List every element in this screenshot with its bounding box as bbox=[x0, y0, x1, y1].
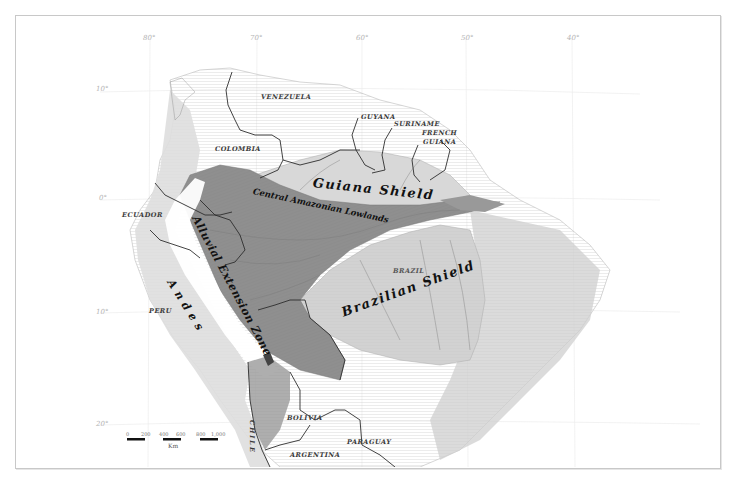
country-label-colombia: COLOMBIA bbox=[215, 145, 261, 153]
country-label-bolivia: BOLIVIA bbox=[287, 414, 323, 422]
country-label-suriname: SURINAME bbox=[394, 120, 440, 128]
country-label-argentina: ARGENTINA bbox=[290, 451, 340, 459]
longitude-label-50: 50° bbox=[461, 34, 473, 42]
scale-tick-400: 400 bbox=[159, 431, 169, 437]
scale-bar bbox=[127, 438, 218, 441]
longitude-label-70: 70° bbox=[250, 34, 262, 42]
country-label-paraguay: PARAGUAY bbox=[347, 438, 391, 446]
longitude-label-60: 60° bbox=[356, 34, 368, 42]
country-label-french: FRENCH bbox=[422, 129, 457, 137]
country-label-venezuela: VENEZUELA bbox=[261, 93, 311, 101]
longitude-label-80: 80° bbox=[143, 34, 155, 42]
latitude-label-10s: 10° bbox=[96, 308, 108, 316]
scale-tick-600: 600 bbox=[176, 431, 186, 437]
scale-tick-0: 0 bbox=[126, 431, 129, 437]
country-label-chile: CHILE bbox=[248, 420, 256, 454]
country-label-guyana: GUYANA bbox=[361, 113, 395, 121]
scale-tick-800: 800 bbox=[196, 431, 206, 437]
scale-tick-1000: 1,000 bbox=[211, 431, 225, 437]
scale-tick-200: 200 bbox=[141, 431, 151, 437]
latitude-label-20s: 20° bbox=[96, 420, 108, 428]
scale-unit: Km bbox=[168, 442, 178, 449]
south-america-map bbox=[0, 0, 735, 479]
country-label-guiana: GUIANA bbox=[423, 138, 456, 146]
country-label-ecuador: ECUADOR bbox=[122, 211, 163, 219]
longitude-label-40: 40° bbox=[567, 34, 579, 42]
latitude-label-0: 0° bbox=[99, 194, 107, 202]
latitude-label-10n: 10° bbox=[96, 85, 108, 93]
country-label-brazil: BRAZIL bbox=[393, 267, 424, 275]
country-label-peru: PERU bbox=[149, 307, 172, 315]
